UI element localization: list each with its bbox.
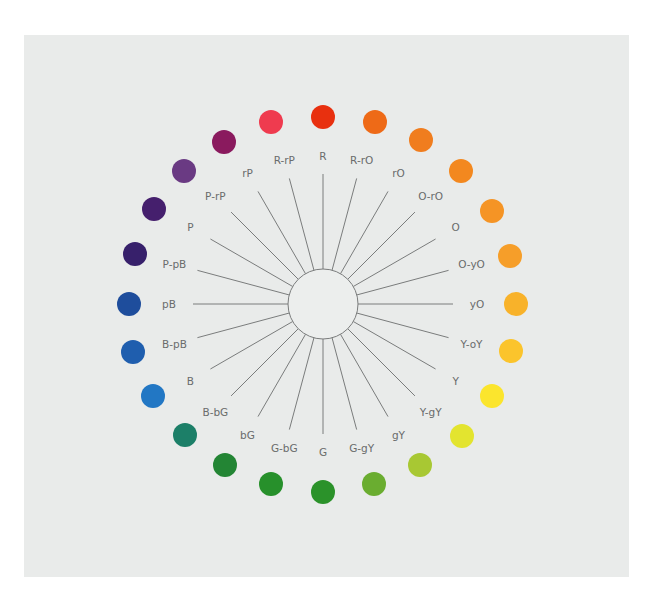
color-dot — [142, 197, 166, 221]
color-dot — [259, 110, 283, 134]
hue-label: B-pB — [162, 338, 187, 350]
spoke-line — [210, 322, 292, 370]
hue-label: R-rP — [274, 154, 295, 166]
spoke-line — [348, 212, 415, 279]
color-dot — [213, 453, 237, 477]
spoke-line — [341, 334, 389, 416]
spoke-line — [258, 191, 306, 273]
color-dot — [362, 472, 386, 496]
color-dot — [408, 453, 432, 477]
color-dot — [123, 242, 147, 266]
hue-label: B-bG — [202, 406, 228, 418]
color-dot — [121, 340, 145, 364]
spoke-line — [210, 239, 292, 287]
hue-label: pB — [162, 298, 176, 310]
hue-label: G — [319, 446, 327, 458]
hue-label: yO — [470, 298, 484, 310]
hue-label: B — [187, 375, 194, 387]
hue-label: R-rO — [350, 154, 373, 166]
color-dot — [480, 199, 504, 223]
color-dot — [450, 424, 474, 448]
spoke-line — [332, 338, 357, 430]
color-dot — [480, 384, 504, 408]
color-wheel: RR-rOrOO-rOOO-yOyOY-oYYY-gYgYG-gYGG-bGbG… — [0, 0, 651, 602]
spoke-line — [289, 338, 314, 430]
spoke-line — [197, 270, 289, 295]
spoke-line — [353, 322, 435, 370]
color-dot — [311, 480, 335, 504]
color-dot — [449, 159, 473, 183]
color-dot — [259, 472, 283, 496]
hue-label: O-yO — [458, 258, 485, 270]
color-dot — [504, 292, 528, 316]
hue-label: P-pB — [163, 258, 187, 270]
spoke-line — [197, 313, 289, 338]
spoke-line — [231, 212, 298, 279]
hue-label: P — [187, 221, 193, 233]
spoke-line — [258, 334, 306, 416]
hue-label: bG — [240, 429, 255, 441]
color-dot — [117, 292, 141, 316]
hue-label: rO — [392, 167, 405, 179]
color-dot — [141, 384, 165, 408]
center-circle — [288, 269, 358, 339]
color-dot — [172, 159, 196, 183]
hue-label: Y-oY — [460, 338, 484, 350]
hue-label: P-rP — [205, 190, 226, 202]
hue-label: O-rO — [418, 190, 443, 202]
spoke-line — [289, 178, 314, 270]
spoke-line — [357, 313, 449, 338]
hue-label: Y — [451, 375, 459, 387]
color-dot — [212, 130, 236, 154]
color-dot — [409, 128, 433, 152]
spoke-line — [357, 270, 449, 295]
color-dot — [173, 423, 197, 447]
color-dot — [498, 244, 522, 268]
hue-label: Y-gY — [419, 406, 443, 418]
color-dot — [363, 110, 387, 134]
hue-label: R — [319, 150, 326, 162]
hue-label: G-gY — [349, 442, 375, 454]
hue-label: gY — [392, 429, 406, 441]
hue-label: O — [452, 221, 460, 233]
spoke-line — [348, 329, 415, 396]
hue-label: G-bG — [271, 442, 298, 454]
hue-label: rP — [242, 167, 253, 179]
spoke-line — [332, 178, 357, 270]
color-dot — [311, 105, 335, 129]
spoke-line — [231, 329, 298, 396]
color-dot — [499, 339, 523, 363]
spoke-line — [353, 239, 435, 287]
spoke-line — [341, 191, 389, 273]
